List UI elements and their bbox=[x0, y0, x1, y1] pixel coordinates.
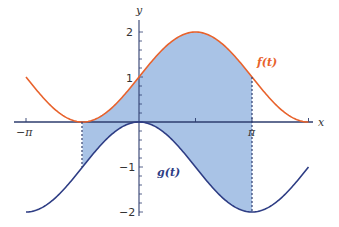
x-tick-pi: π bbox=[247, 126, 256, 139]
y-tick-neg1: −1 bbox=[119, 161, 135, 174]
y-axis-label: y bbox=[135, 4, 143, 17]
x-tick-neg-pi: −π bbox=[16, 126, 33, 139]
y-tick-2: 2 bbox=[126, 26, 133, 39]
y-tick-1: 1 bbox=[126, 72, 133, 85]
f-label: f(t) bbox=[256, 56, 277, 69]
chart: y x 2 1 −1 −2 −π π f(t) g(t) bbox=[0, 0, 339, 227]
y-tick-neg2: −2 bbox=[119, 206, 135, 219]
x-axis-label: x bbox=[318, 116, 325, 129]
g-label: g(t) bbox=[157, 166, 180, 179]
